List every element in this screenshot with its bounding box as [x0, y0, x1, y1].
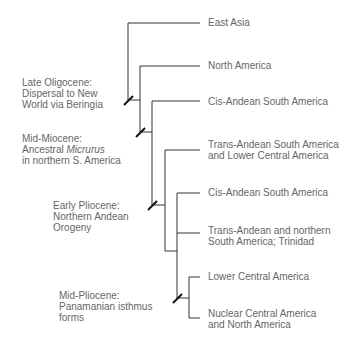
taxon-cis-andean-1: Cis-Andean South America — [208, 96, 328, 107]
taxon-line: South America; Trinidad — [208, 236, 331, 247]
event-title: Mid-Miocene: — [22, 133, 121, 144]
taxon-lower-central-america: Lower Central America — [208, 271, 309, 282]
phylogenetic-tree — [0, 0, 358, 340]
taxon-east-asia: East Asia — [208, 17, 250, 28]
event-text: Panamanian isthmus — [59, 301, 152, 312]
taxon-cis-andean-2: Cis-Andean South America — [208, 187, 328, 198]
taxon-trans-andean-lower-central: Trans-Andean South America and Lower Cen… — [208, 139, 339, 161]
taxon-nuclear-central-north-america: Nuclear Central America and North Americ… — [208, 308, 316, 330]
event-text: Northern Andean — [53, 211, 129, 222]
event-mid-pliocene: Mid-Pliocene: Panamanian isthmus forms — [59, 290, 152, 323]
taxon-trans-andean-trinidad: Trans-Andean and northern South America;… — [208, 225, 331, 247]
event-text: Dispersal to New — [22, 88, 103, 99]
event-text: World via Beringia — [22, 99, 103, 110]
event-text: forms — [59, 312, 152, 323]
event-text: in northern S. America — [22, 155, 121, 166]
event-early-pliocene: Early Pliocene: Northern Andean Orogeny — [53, 200, 129, 233]
taxon-line: Trans-Andean South America — [208, 139, 339, 150]
event-title: Mid-Pliocene: — [59, 290, 152, 301]
taxon-line: and North America — [208, 319, 316, 330]
genus-name: Micrurus — [66, 144, 104, 155]
taxon-line: and Lower Central America — [208, 150, 339, 161]
event-mid-miocene: Mid-Miocene: Ancestral Micrurus in north… — [22, 133, 121, 166]
taxon-line: Nuclear Central America — [208, 308, 316, 319]
event-text: Ancestral Micrurus — [22, 144, 121, 155]
event-late-oligocene: Late Oligocene: Dispersal to New World v… — [22, 77, 103, 110]
event-text-prefix: Ancestral — [22, 144, 66, 155]
event-title: Late Oligocene: — [22, 77, 103, 88]
event-title: Early Pliocene: — [53, 200, 129, 211]
event-text: Orogeny — [53, 222, 129, 233]
taxon-line: Trans-Andean and northern — [208, 225, 331, 236]
taxon-north-america: North America — [208, 60, 271, 71]
